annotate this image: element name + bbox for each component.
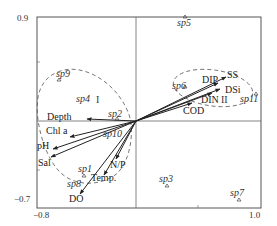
- sp7-label: sp7: [230, 187, 245, 198]
- depth-label: Depth: [47, 111, 71, 122]
- group-II-label: II: [221, 94, 228, 105]
- x-right-tick-label: 1.0: [249, 210, 261, 220]
- sp3-label: sp3: [159, 173, 173, 184]
- x-left-tick-label: −0.8: [33, 210, 50, 220]
- sp1-marker: [82, 174, 86, 177]
- sp6-label: sp6: [172, 80, 186, 91]
- group-I-label: I: [96, 94, 99, 105]
- temp-label: Temp.: [91, 172, 116, 183]
- sp11-label: sp11: [240, 93, 258, 104]
- sp4-label: sp4: [76, 93, 90, 104]
- sal-label: Sal: [38, 157, 51, 168]
- sp10-label: sp10: [103, 128, 122, 139]
- din-label: DIN: [201, 94, 219, 105]
- y-bottom-tick-label: −0.7: [14, 194, 31, 204]
- sp3-marker: [165, 184, 169, 187]
- y-top-tick-label: 0.9: [17, 13, 29, 23]
- sp9-label: sp9: [56, 68, 70, 79]
- sp8-label: sp8: [67, 178, 81, 189]
- sp2-label: sp2: [108, 108, 122, 119]
- dip-label: DIP: [202, 74, 219, 85]
- do-label: DO: [69, 193, 83, 204]
- ordination-biplot: 0.9 −0.7 −0.8 1.0 Depth Chl a pH Sal N/P…: [0, 0, 277, 226]
- ph-label: pH: [37, 140, 49, 151]
- np-label: N/P: [110, 159, 126, 170]
- chla-label: Chl a: [46, 125, 68, 136]
- sp1-label: sp1: [78, 163, 92, 174]
- ss-label: SS: [227, 69, 238, 80]
- sp5-label: sp5: [177, 17, 191, 28]
- cod-label: COD: [183, 105, 204, 116]
- sp7-marker: [237, 198, 241, 201]
